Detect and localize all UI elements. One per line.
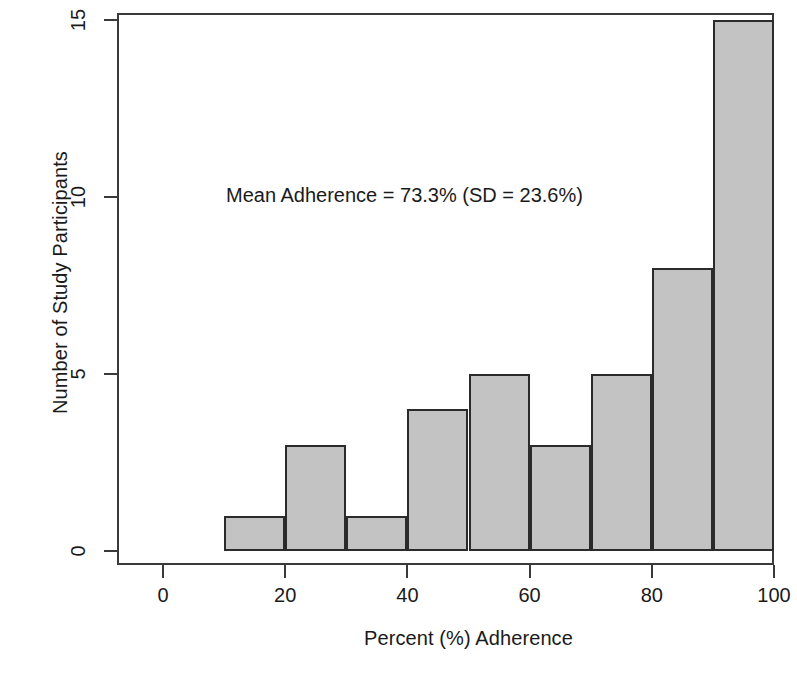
y-axis-title: Number of Study Participants	[40, 0, 80, 565]
x-tick-mark	[773, 565, 775, 578]
x-tick-label: 80	[622, 584, 682, 607]
x-tick-mark	[162, 565, 164, 578]
x-tick-mark	[406, 565, 408, 578]
x-tick-mark	[529, 565, 531, 578]
x-tick-label: 0	[133, 584, 193, 607]
x-tick-label: 20	[255, 584, 315, 607]
y-tick-mark	[104, 550, 117, 552]
y-tick-mark	[104, 19, 117, 21]
x-tick-mark	[284, 565, 286, 578]
x-tick-label: 100	[744, 584, 797, 607]
histogram-bar	[469, 374, 530, 551]
histogram-bar	[591, 374, 652, 551]
histogram-bar	[224, 516, 285, 551]
x-tick-label: 40	[377, 584, 437, 607]
y-tick-label: 0	[65, 531, 91, 571]
histogram-bar	[713, 20, 774, 551]
x-tick-label: 60	[500, 584, 560, 607]
y-tick-label: 10	[65, 177, 91, 217]
histogram-bar	[652, 268, 713, 551]
histogram-bar	[530, 445, 591, 551]
histogram-bar	[407, 409, 468, 551]
mean-adherence-annotation: Mean Adherence = 73.3% (SD = 23.6%)	[226, 184, 583, 207]
x-tick-mark	[651, 565, 653, 578]
x-axis-title: Percent (%) Adherence	[163, 627, 774, 650]
histogram-bar	[346, 516, 407, 551]
histogram-figure: Number of Study Participants 051015 0204…	[0, 0, 797, 675]
y-tick-mark	[104, 373, 117, 375]
y-tick-mark	[104, 196, 117, 198]
y-tick-label: 5	[65, 354, 91, 394]
histogram-bar	[285, 445, 346, 551]
y-tick-label: 15	[65, 0, 91, 40]
